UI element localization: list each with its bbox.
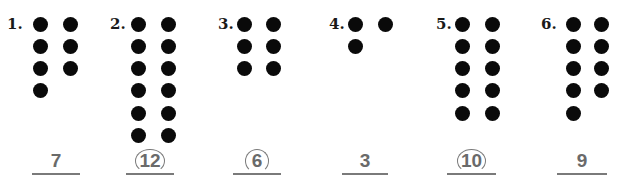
dot [161, 128, 176, 143]
answer-value: 9 [577, 149, 588, 173]
dot [485, 39, 500, 54]
answer-line[interactable]: 10 [447, 149, 496, 175]
dot [455, 39, 470, 54]
dot [63, 61, 78, 76]
answer-value-circled: 6 [245, 149, 269, 173]
dot [485, 106, 500, 121]
dot [566, 17, 581, 32]
dot [33, 83, 48, 98]
dot [566, 39, 581, 54]
dot [455, 106, 470, 121]
dot [266, 17, 281, 32]
problem-number: 1. [7, 15, 23, 33]
dot [237, 61, 252, 76]
problem-number: 3. [218, 15, 234, 33]
answer-line[interactable]: 9 [557, 149, 607, 175]
answer-value: 7 [51, 149, 62, 173]
answer-value: 3 [360, 149, 371, 173]
dot [63, 39, 78, 54]
dot [455, 83, 470, 98]
dot [594, 17, 609, 32]
dot [455, 17, 470, 32]
dot [594, 39, 609, 54]
dot [161, 39, 176, 54]
answer-line[interactable]: 7 [32, 149, 80, 175]
dot [485, 83, 500, 98]
answer-line[interactable]: 3 [342, 149, 388, 175]
answer-value-circled: 10 [457, 149, 486, 173]
problem-number: 5. [436, 15, 452, 33]
dot [131, 61, 146, 76]
dot [63, 17, 78, 32]
dot [455, 61, 470, 76]
dot [266, 61, 281, 76]
dot [566, 61, 581, 76]
dot [566, 106, 581, 121]
dot [161, 61, 176, 76]
dot [33, 17, 48, 32]
dot [161, 17, 176, 32]
dot [131, 39, 146, 54]
problem-number: 4. [329, 15, 345, 33]
dot [266, 39, 281, 54]
dot [131, 83, 146, 98]
dot [131, 17, 146, 32]
dot [161, 106, 176, 121]
dot [131, 128, 146, 143]
dot [485, 17, 500, 32]
answer-value-circled: 12 [135, 149, 164, 173]
dot [131, 106, 146, 121]
dot [161, 83, 176, 98]
dot [378, 17, 393, 32]
dot [594, 83, 609, 98]
dot [566, 83, 581, 98]
problem-number: 2. [110, 15, 126, 33]
dot [594, 61, 609, 76]
answer-line[interactable]: 12 [126, 149, 174, 175]
dot [348, 39, 363, 54]
dot [33, 61, 48, 76]
dot [237, 39, 252, 54]
dot [485, 61, 500, 76]
problem-number: 6. [541, 15, 557, 33]
dot [348, 17, 363, 32]
dot [237, 17, 252, 32]
dot [33, 39, 48, 54]
answer-line[interactable]: 6 [233, 149, 281, 175]
